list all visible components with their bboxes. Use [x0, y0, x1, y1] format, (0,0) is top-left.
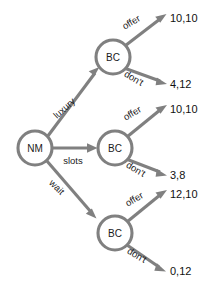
- edge-luxury-dont-arrowhead: [156, 78, 167, 86]
- node-nm-root[interactable]: NM: [18, 131, 52, 165]
- payoff-luxury-dont: 4,12: [170, 78, 191, 90]
- payoff-label-group: 10,10 4,12 10,10 3,8 12,10 0,12: [170, 12, 198, 277]
- edge-label-slots-offer: offer: [121, 103, 143, 122]
- payoff-wait-dont: 0,12: [170, 265, 191, 277]
- edge-luxury-arrowhead: [89, 67, 100, 76]
- edge-slots: [52, 143, 98, 153]
- bc-wait-node-label: BC: [108, 228, 122, 239]
- payoff-wait-offer: 12,10: [170, 188, 198, 200]
- edge-label-wait-offer: offer: [123, 189, 145, 208]
- edge-label-slots: slots: [63, 155, 83, 166]
- payoff-slots-dont: 3,8: [170, 169, 185, 181]
- bc-slots-node-label: BC: [108, 143, 122, 154]
- node-bc-slots[interactable]: BC: [98, 131, 132, 165]
- node-bc-wait[interactable]: BC: [98, 216, 132, 250]
- edge-label-wait-dont: don't: [125, 245, 148, 265]
- nm-node-label: NM: [27, 143, 43, 154]
- edge-slots-dont-arrowhead: [156, 169, 167, 177]
- game-tree-diagram: NM BC BC BC luxury slots wait offer don'…: [0, 0, 206, 289]
- edge-label-slots-dont: don't: [124, 159, 147, 179]
- edge-label-luxury-offer: offer: [120, 12, 142, 31]
- node-bc-luxury[interactable]: BC: [96, 40, 130, 74]
- edge-group-root: [47, 67, 100, 219]
- bc-luxury-node-label: BC: [106, 52, 120, 63]
- edge-label-luxury-dont: don't: [122, 68, 145, 88]
- edge-slots-arrowhead: [87, 143, 98, 153]
- payoff-luxury-offer: 10,10: [170, 12, 198, 24]
- payoff-slots-offer: 10,10: [170, 103, 198, 115]
- game-tree-canvas: NM BC BC BC luxury slots wait offer don'…: [0, 0, 206, 289]
